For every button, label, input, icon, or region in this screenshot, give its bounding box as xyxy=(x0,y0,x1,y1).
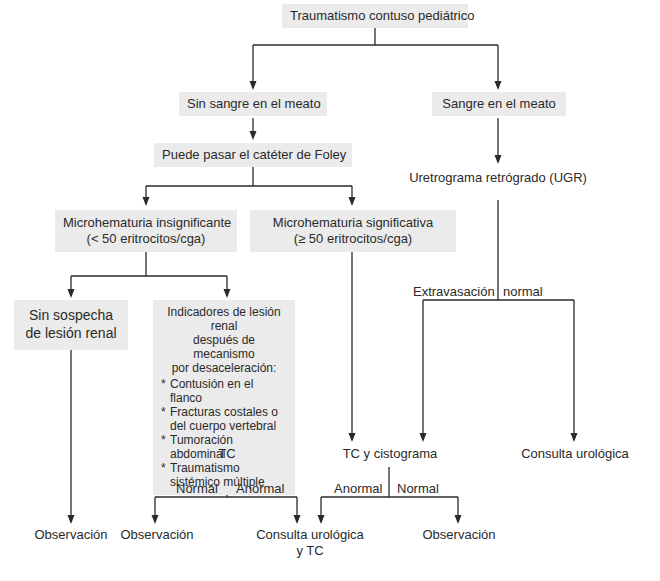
edge-label-cysto-normal: Normal xyxy=(397,481,439,497)
node-observation-3: Observación xyxy=(418,527,500,543)
node-no-blood-label: Sin sangre en el meato xyxy=(187,96,321,111)
indicators-heading-line2: después de mecanismo xyxy=(161,333,287,361)
node-micro-insig-line1: Microhematuria insignificante xyxy=(63,215,229,231)
indicator-item: Fracturas costales o del cuerpo vertebra… xyxy=(161,405,287,433)
node-micro-insignificant: Microhematuria insignificante (< 50 erit… xyxy=(55,210,237,252)
node-ct: TC xyxy=(212,446,242,462)
node-ct-label: TC xyxy=(218,446,235,461)
node-micro-sig-line1: Microhematuria significativa xyxy=(258,215,448,231)
connector-lines xyxy=(0,0,660,581)
node-urology-consult-ct-line1: Consulta urológica xyxy=(248,527,372,543)
edge-label-ugr-normal: normal xyxy=(503,284,543,300)
node-observation-1-label: Observación xyxy=(35,527,108,542)
node-observation-1: Observación xyxy=(30,527,112,543)
node-no-renal-suspicion: Sin sospecha de lesión renal xyxy=(14,300,128,350)
node-blood-label: Sangre en el meato xyxy=(442,96,555,111)
node-ct-cystogram: TC y cistograma xyxy=(335,446,445,462)
node-micro-significant: Microhematuria significativa (≥ 50 eritr… xyxy=(250,210,456,252)
node-no-suspicion-line1: Sin sospecha xyxy=(22,306,120,324)
node-urology-consult-right-label: Consulta urológica xyxy=(521,446,629,461)
node-ct-cystogram-label: TC y cistograma xyxy=(343,446,438,461)
flowchart: Traumatismo contuso pediátrico Sin sangr… xyxy=(0,0,660,581)
node-blood-meatus: Sangre en el meato xyxy=(432,92,566,116)
indicators-heading-line3: por desaceleración: xyxy=(161,361,287,375)
node-urology-consult-right: Consulta urológica xyxy=(518,446,632,462)
indicators-list: Contusión en el flanco Fracturas costale… xyxy=(161,377,287,489)
edge-label-extravasation: Extravasación xyxy=(413,284,495,300)
node-no-blood-meatus: Sin sangre en el meato xyxy=(179,92,327,116)
node-observation-3-label: Observación xyxy=(423,527,496,542)
node-ugr-label: Uretrograma retrógrado (UGR) xyxy=(409,170,587,185)
node-foley-label: Puede pasar el catéter de Foley xyxy=(162,147,346,162)
node-no-suspicion-line2: de lesión renal xyxy=(22,324,120,342)
indicators-heading-line1: Indicadores de lesión renal xyxy=(161,305,287,333)
edge-label-cysto-abnormal: Anormal xyxy=(334,481,382,497)
node-urology-consult-ct: Consulta urológica y TC xyxy=(248,527,372,559)
indicator-item: Contusión en el flanco xyxy=(161,377,287,405)
edge-label-ct-abnormal: Anormal xyxy=(236,481,284,497)
node-observation-2: Observación xyxy=(116,527,198,543)
node-observation-2-label: Observación xyxy=(121,527,194,542)
indicators-heading: Indicadores de lesión renal después de m… xyxy=(161,305,287,375)
node-root: Traumatismo contuso pediátrico xyxy=(282,4,468,28)
node-foley: Puede pasar el catéter de Foley xyxy=(154,143,352,167)
node-root-label: Traumatismo contuso pediátrico xyxy=(290,8,475,23)
edge-label-ct-normal: Normal xyxy=(176,481,218,497)
node-micro-insig-line2: (< 50 eritrocitos/cga) xyxy=(63,231,229,247)
node-ugr: Uretrograma retrógrado (UGR) xyxy=(408,170,588,186)
node-micro-sig-line2: (≥ 50 eritrocitos/cga) xyxy=(258,231,448,247)
node-renal-injury-indicators: Indicadores de lesión renal después de m… xyxy=(153,300,295,495)
node-urology-consult-ct-line2: y TC xyxy=(248,543,372,559)
